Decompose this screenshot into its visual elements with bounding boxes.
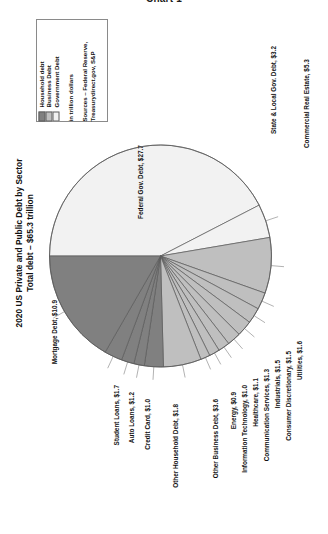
label-leader-line bbox=[124, 362, 128, 374]
legend-sources: Sources – Federal Reserve, Treasurydirec… bbox=[80, 20, 95, 121]
pie-outline bbox=[50, 145, 272, 367]
legend-swatch-household bbox=[38, 111, 45, 121]
label-leader-line bbox=[215, 353, 221, 364]
label-leader-line bbox=[245, 329, 255, 338]
pie-slice bbox=[161, 256, 210, 359]
pie-slice-label: Utilities, $1.6 bbox=[296, 341, 304, 381]
legend-units-note: in trillion dollars bbox=[66, 20, 73, 121]
pie-slice bbox=[161, 256, 240, 344]
label-leader-line bbox=[224, 347, 231, 358]
legend-item-government: Government Debt bbox=[52, 56, 59, 107]
pie-slice-label: Information Technology, $1.0 bbox=[241, 385, 249, 473]
legend-item-household: Household debt bbox=[37, 56, 44, 107]
label-leader-line bbox=[205, 358, 210, 370]
legend-item-business: Business Debt bbox=[44, 56, 51, 107]
pie-slice bbox=[161, 237, 272, 293]
legend-sources-line2: Treasurydirect.gov, S&P bbox=[88, 20, 95, 121]
chart-page: Chart 1 2020 US Private and Public Debt … bbox=[0, 0, 328, 534]
pie-slice bbox=[161, 256, 266, 309]
pie-slice-label: Student Loans, $1.7 bbox=[113, 385, 121, 446]
chart-title-line2: Total debt – $65.3 trillion bbox=[25, 138, 36, 348]
pie-slice-label: State & Local Gov. Debt, $3.2 bbox=[270, 46, 278, 134]
label-leader-line bbox=[254, 316, 265, 323]
pie-slice bbox=[161, 256, 229, 350]
chart-title: 2020 US Private and Public Debt by Secto… bbox=[14, 138, 36, 348]
label-leader-line bbox=[108, 356, 114, 368]
pie-slice bbox=[161, 205, 270, 256]
pie-slice bbox=[161, 256, 201, 367]
legend-swatch-government bbox=[52, 111, 59, 121]
pie-slice-label: Credit Card, $1.0 bbox=[144, 399, 152, 450]
pie-slice bbox=[161, 256, 259, 322]
pie-slice bbox=[105, 256, 160, 360]
legend-sources-line1: Sources – Federal Reserve, bbox=[80, 20, 87, 121]
label-leader-line bbox=[266, 217, 278, 221]
pie-slice-label: Federal Gov. Debt, $27.7 bbox=[137, 145, 145, 219]
pie-slice bbox=[134, 256, 161, 366]
pie-slice bbox=[50, 256, 161, 352]
label-leader-line bbox=[271, 266, 284, 267]
legend-label-list: Household debt Business Debt Government … bbox=[37, 56, 59, 107]
label-leader-line bbox=[262, 301, 274, 306]
pie-slice bbox=[122, 256, 161, 364]
document-heading: Chart 1 bbox=[0, 0, 328, 4]
legend-swatch-business bbox=[45, 111, 52, 121]
label-leader-line bbox=[137, 365, 140, 378]
chart-legend: Household debt Business Debt Government … bbox=[36, 19, 108, 122]
label-leader-line bbox=[53, 312, 64, 319]
label-leader-line bbox=[234, 339, 243, 349]
pie-slice bbox=[161, 256, 250, 334]
chart-title-line1: 2020 US Private and Public Debt by Secto… bbox=[14, 138, 25, 348]
pie-slice-label: Consumer Discretionary, $1.5 bbox=[285, 351, 293, 441]
pie-slice bbox=[161, 256, 220, 355]
pie-slice bbox=[144, 256, 163, 367]
pie-slice-label: Other Household Debt, $1.8 bbox=[172, 404, 180, 488]
label-leader-line bbox=[183, 365, 186, 378]
label-leader-line bbox=[153, 367, 154, 380]
pie-slice-label: Industrials, $1.5 bbox=[274, 360, 282, 409]
pie-slice-label: Communication Services, $1.3 bbox=[263, 369, 271, 462]
pie-slice-label: Other Business Debt, $3.6 bbox=[212, 399, 220, 479]
pie-slice-label: Energy, $0.9 bbox=[230, 392, 238, 430]
pie-slice bbox=[50, 145, 260, 256]
pie-slice-label: Mortgage Debt, $10.9 bbox=[51, 300, 59, 365]
pie-slice-label: Healthcare, $1.1 bbox=[252, 378, 260, 427]
legend-entries: Household debt Business Debt Government … bbox=[37, 20, 59, 121]
legend-swatches bbox=[38, 111, 59, 121]
pie-slice-label: Commercial Real Estate, $5.3 bbox=[303, 59, 311, 148]
pie-slice-label: Auto Loans, $1.2 bbox=[128, 392, 136, 444]
